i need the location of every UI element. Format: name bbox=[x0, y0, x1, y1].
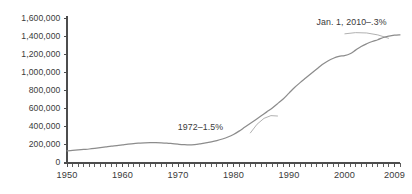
x-axis-tick-label: 1970 bbox=[148, 170, 208, 180]
y-axis-tick-label: 200,000 bbox=[29, 139, 61, 149]
chart-container: 1,600,0001,400,0001,200,0001,000,000800,… bbox=[0, 0, 412, 194]
y-axis-tick-label: 800,000 bbox=[29, 85, 61, 95]
chart-axes bbox=[67, 16, 400, 163]
axis-major-ticks bbox=[64, 19, 395, 168]
series-line-0 bbox=[67, 35, 400, 151]
y-axis-tick-label: 400,000 bbox=[29, 121, 61, 131]
x-axis-tick-label: 1960 bbox=[93, 170, 153, 180]
data-series-lines bbox=[67, 35, 400, 151]
line-chart-plot bbox=[0, 0, 412, 194]
x-axis-tick-label: 1950 bbox=[37, 170, 97, 180]
annotation-jan-2010: Jan. 1, 2010–.3% bbox=[317, 17, 387, 27]
x-axis-tick-label: 1990 bbox=[259, 170, 319, 180]
y-axis-tick-label: 0 bbox=[56, 157, 61, 167]
y-axis-tick-label: 1,200,000 bbox=[21, 49, 60, 59]
y-axis-tick-label: 1,000,000 bbox=[21, 67, 60, 77]
annotation-leader-lines bbox=[250, 33, 389, 134]
leader-line-annotation-1972 bbox=[250, 115, 278, 133]
y-axis-tick-label: 600,000 bbox=[29, 103, 61, 113]
annotation-1972: 1972–1.5% bbox=[178, 122, 223, 132]
x-axis-tick-label: 2009 bbox=[364, 170, 412, 180]
x-axis-tick-label: 1980 bbox=[204, 170, 264, 180]
y-axis-tick-label: 1,600,000 bbox=[21, 13, 60, 23]
y-axis-tick-label: 1,400,000 bbox=[21, 31, 60, 41]
